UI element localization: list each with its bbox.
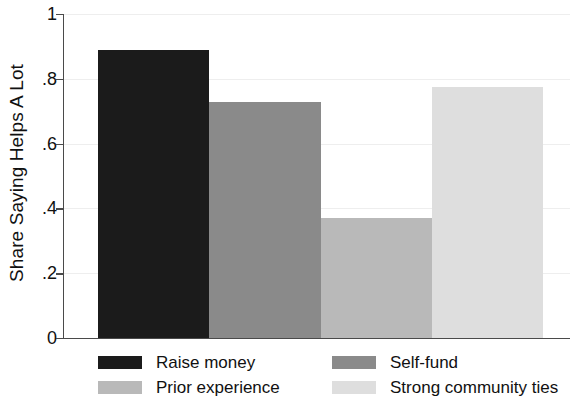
y-axis-tick-label: 0	[24, 328, 57, 349]
legend-swatch-icon	[98, 356, 142, 369]
legend-label: Strong community ties	[390, 378, 558, 398]
legend-label: Self-fund	[390, 353, 458, 373]
legend-item: Strong community ties	[332, 377, 558, 398]
legend-item: Raise money	[98, 352, 255, 373]
x-axis-line	[63, 338, 570, 339]
bar-self-fund	[209, 102, 320, 338]
chart-legend: Raise moneySelf-fundPrior experienceStro…	[98, 352, 568, 400]
legend-swatch-icon	[332, 381, 376, 394]
plot-area	[64, 14, 570, 338]
y-axis-tick-labels: 1.8.6.4.20	[24, 0, 57, 405]
legend-label: Prior experience	[156, 378, 280, 398]
bar-chart-figure: Share Saying Helps A Lot 1.8.6.4.20 Rais…	[0, 0, 578, 405]
bar-raise-money	[98, 50, 209, 338]
y-axis-tick-label: .2	[24, 263, 57, 284]
y-axis-tick-label: .6	[24, 133, 57, 154]
legend-swatch-icon	[98, 381, 142, 394]
y-axis-tick-label: 1	[24, 4, 57, 25]
legend-swatch-icon	[332, 356, 376, 369]
bar-prior-experience	[321, 218, 432, 338]
legend-item: Prior experience	[98, 377, 280, 398]
legend-item: Self-fund	[332, 352, 458, 373]
bar-strong-community-ties	[432, 87, 543, 338]
y-axis-tick-label: .4	[24, 198, 57, 219]
legend-label: Raise money	[156, 353, 255, 373]
y-axis-tick-label: .8	[24, 68, 57, 89]
